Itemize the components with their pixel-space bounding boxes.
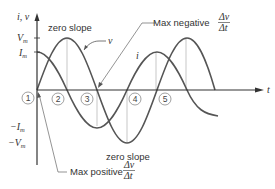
y-axis-arrow-icon: [35, 13, 40, 21]
max-negative-arrow-icon: [98, 82, 103, 88]
svg-text:Vm: Vm: [17, 32, 28, 44]
svg-text:4: 4: [133, 94, 138, 104]
svg-text:−Vm: −Vm: [8, 137, 26, 149]
v-curve-label: v: [108, 35, 113, 46]
svg-text:Δv: Δv: [123, 159, 135, 170]
sinusoid-diagram: i, v t Vm Im −Im −Vm zero slope zero slo…: [0, 0, 275, 189]
max-negative-label: Max negative Δv Δt: [153, 11, 230, 33]
point-markers: [22, 92, 171, 105]
svg-text:Δv: Δv: [218, 11, 230, 22]
y-tick-labels: Vm Im −Im −Vm: [8, 32, 28, 149]
svg-text:5: 5: [163, 94, 168, 104]
x-axis-arrow-icon: [255, 88, 264, 93]
max-positive-label: Max positive Δv Δt: [70, 159, 135, 181]
i-curve-label: i: [136, 50, 139, 61]
max-negative-leader: [99, 23, 156, 86]
v-leader-line: [84, 41, 106, 50]
svg-text:3: 3: [85, 94, 90, 104]
svg-text:2: 2: [56, 94, 61, 104]
y-axis-label: i, v: [17, 11, 30, 22]
x-axis-label: t: [267, 84, 270, 95]
zero-slope-top-label: zero slope: [48, 22, 92, 33]
svg-text:1: 1: [26, 93, 31, 103]
svg-text:Max negative: Max negative: [153, 17, 210, 28]
svg-text:Δt: Δt: [123, 170, 133, 181]
svg-text:Max positive: Max positive: [70, 166, 123, 177]
axes: [34, 13, 264, 165]
max-positive-leader: [39, 94, 67, 172]
svg-text:Δt: Δt: [218, 22, 228, 33]
svg-text:Im: Im: [18, 47, 27, 59]
svg-text:−Im: −Im: [10, 121, 25, 133]
